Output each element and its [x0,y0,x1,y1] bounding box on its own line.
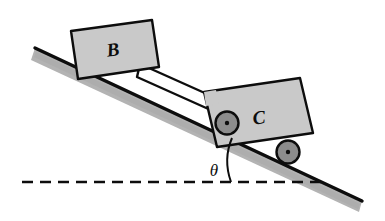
angle-label: θ [210,161,218,180]
block-b[interactable]: B [71,20,159,79]
block-b-label: B [104,38,120,61]
physics-diagram: C B θ [0,0,385,221]
wheel-front-hub [225,121,229,125]
wheel-front [216,112,239,135]
wheel-rear-hub [286,150,290,154]
diagram-canvas: C B θ [0,0,385,221]
wheel-rear [277,141,300,164]
